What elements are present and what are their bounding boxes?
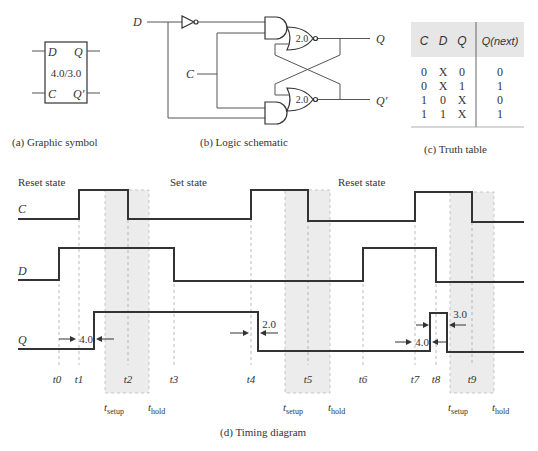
svg-text:X: X [439, 79, 448, 93]
svg-text:thold: thold [328, 401, 345, 416]
nor-top-delay: 2.0 [296, 33, 309, 44]
schematic-output-q: Q [376, 32, 385, 46]
svg-text:4.0: 4.0 [415, 336, 429, 348]
caption-d: (d) Timing diagram [220, 426, 307, 439]
svg-text:X: X [458, 107, 467, 121]
delay-annotation-4: 3.0 [416, 308, 467, 328]
svg-text:3.0: 3.0 [453, 308, 467, 320]
tt-header-q: Q [457, 34, 466, 48]
signal-label-q: Q [18, 333, 27, 347]
svg-text:t0: t0 [53, 373, 62, 385]
svg-text:X: X [439, 65, 448, 79]
tt-header-qnext: Q(next) [482, 35, 519, 47]
nor-bottom-delay: 2.0 [296, 94, 309, 105]
and-gate-bottom [265, 102, 287, 124]
table-row: 1 0 X 0 [421, 93, 503, 107]
inverter-gate [182, 16, 198, 28]
svg-text:1: 1 [440, 107, 446, 121]
svg-text:4.0: 4.0 [79, 333, 93, 345]
svg-text:0: 0 [459, 65, 465, 79]
svg-text:1: 1 [497, 107, 503, 121]
symbol-pin-q: Q [74, 45, 83, 59]
table-row: 0 X 0 0 [421, 65, 503, 79]
svg-text:t8: t8 [432, 373, 441, 385]
tt-header-d: D [439, 34, 448, 48]
svg-text:1: 1 [421, 93, 427, 107]
state-label-reset-2: Reset state [338, 176, 385, 188]
schematic-input-d: D [132, 15, 142, 29]
svg-text:t9: t9 [468, 373, 477, 385]
svg-text:t4: t4 [247, 373, 256, 385]
svg-text:0: 0 [421, 65, 427, 79]
symbol-pin-c: C [48, 87, 57, 101]
svg-text:0: 0 [421, 79, 427, 93]
d-latch-figure: D Q C Q′ 4.0/3.0 (a) Graphic symbol D C [0, 0, 538, 451]
svg-text:t5: t5 [304, 373, 313, 385]
symbol-pin-d: D [47, 45, 57, 59]
svg-text:0: 0 [497, 65, 503, 79]
symbol-delay: 4.0/3.0 [51, 67, 82, 79]
state-label-set: Set state [170, 176, 207, 188]
setup-hold-window-t2 [105, 190, 149, 393]
svg-text:t2: t2 [124, 373, 133, 385]
tt-header-c: C [420, 34, 429, 48]
and-gate-top [265, 17, 287, 39]
caption-a: (a) Graphic symbol [12, 136, 98, 149]
waveform-d [18, 248, 524, 282]
schematic-output-qbar: Q′ [376, 94, 388, 108]
svg-text:2.0: 2.0 [262, 318, 276, 330]
svg-text:0: 0 [497, 93, 503, 107]
symbol-pin-qbar: Q′ [73, 87, 85, 101]
svg-text:thold: thold [492, 401, 509, 416]
graphic-symbol: D Q C Q′ 4.0/3.0 (a) Graphic symbol [12, 42, 100, 149]
logic-schematic: D C 2.0 2.0 Q Q′ [132, 15, 388, 149]
svg-text:X: X [458, 93, 467, 107]
svg-text:t1: t1 [75, 373, 84, 385]
signal-label-d: D [17, 264, 27, 278]
svg-text:tsetup: tsetup [283, 401, 303, 416]
delay-annotation-2: 2.0 [230, 318, 278, 336]
signal-label-c: C [18, 202, 27, 216]
table-row: 0 X 1 1 [421, 79, 503, 93]
svg-text:0: 0 [440, 93, 446, 107]
svg-text:1: 1 [497, 79, 503, 93]
svg-text:t3: t3 [170, 373, 179, 385]
caption-c: (c) Truth table [424, 143, 487, 156]
schematic-input-c: C [186, 67, 195, 81]
table-row: 1 1 X 1 [421, 107, 503, 121]
svg-text:1: 1 [459, 79, 465, 93]
setup-hold-labels: tsetup thold tsetup thold tsetup thold [104, 401, 509, 416]
truth-table: C D Q Q(next) 0 X 0 0 0 X 1 1 1 0 X 0 1 … [411, 22, 524, 156]
svg-text:tsetup: tsetup [448, 401, 468, 416]
state-label-reset-1: Reset state [18, 176, 65, 188]
svg-text:tsetup: tsetup [104, 401, 124, 416]
svg-text:t6: t6 [359, 373, 368, 385]
svg-text:1: 1 [421, 107, 427, 121]
caption-b: (b) Logic schematic [200, 136, 288, 149]
svg-text:t7: t7 [411, 373, 420, 385]
timing-diagram: Reset state Set state Reset state C D Q … [17, 176, 524, 439]
waveform-c [18, 190, 524, 222]
svg-text:thold: thold [148, 401, 165, 416]
delay-annotation-3: 4.0 [395, 336, 448, 348]
